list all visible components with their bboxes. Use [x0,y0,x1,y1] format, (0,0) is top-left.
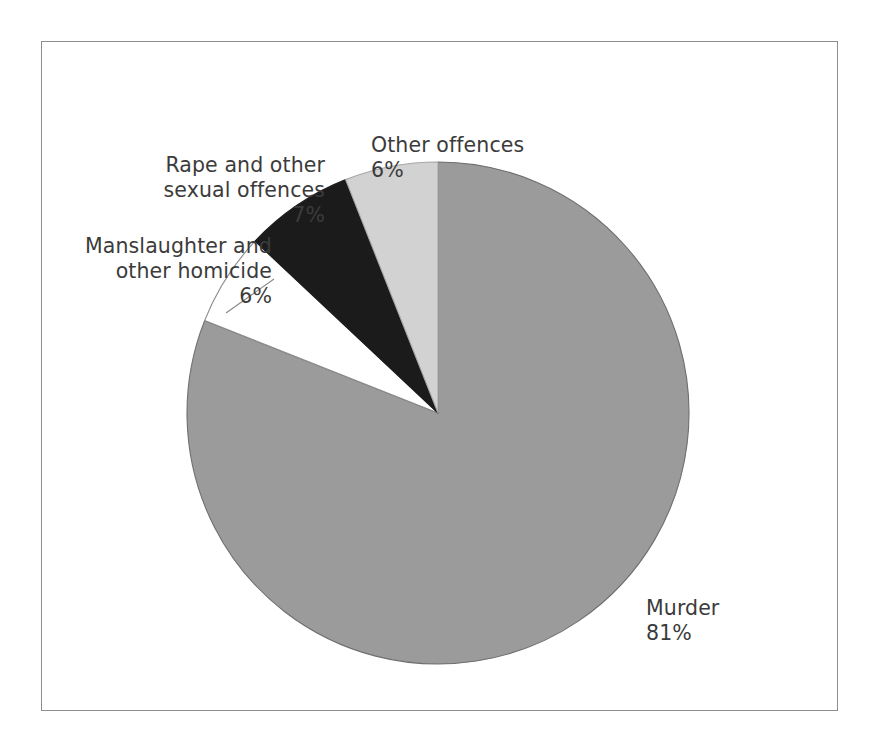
pie-plot-area: Other offences 6% Rape and other sexual … [0,0,879,733]
pie-label-murder-percent: 81% [646,621,719,646]
pie-label-murder: Murder 81% [646,571,719,671]
pie-label-rape-text: Rape and other sexual offences [164,153,325,202]
pie-label-manslaughter-percent: 6% [42,284,272,309]
pie-label-other-offences-percent: 6% [371,158,524,183]
pie-label-other-offences-text: Other offences [371,133,524,157]
chart-figure: Other offences 6% Rape and other sexual … [0,0,879,733]
pie-label-manslaughter-text: Manslaughter and other homicide [85,234,272,283]
pie-label-murder-text: Murder [646,596,719,620]
pie-label-other-offences: Other offences 6% [371,108,524,208]
pie-label-manslaughter-and-other-homicide: Manslaughter and other homicide 6% [42,209,272,334]
